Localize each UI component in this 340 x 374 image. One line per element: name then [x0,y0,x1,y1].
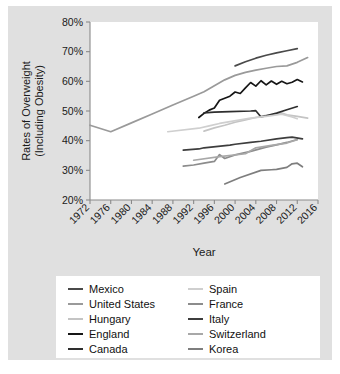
legend-swatch-icon [68,288,83,290]
legend-item-label: Spain [209,284,237,295]
legend-item-hungary[interactable]: Hungary [68,312,188,327]
x-tick-label: 2008 [253,201,278,226]
legend-item-switzerland[interactable]: Switzerland [188,327,316,342]
y-tick-label: 40% [62,134,83,146]
y-tick-label: 80% [62,16,83,28]
legend-swatch-icon [68,348,83,350]
legend-item-label: Italy [209,314,229,325]
legend-swatch-icon [188,303,203,305]
legend-item-france[interactable]: France [188,297,316,312]
legend-item-label: United States [89,299,155,310]
x-tick-label: 1992 [170,201,195,226]
legend-item-spain[interactable]: Spain [188,282,316,297]
x-axis-title: Year [192,246,215,258]
legend-item-mexico[interactable]: Mexico [68,282,188,297]
x-tick-label: 1996 [191,201,216,226]
y-tick-label: 70% [62,45,83,57]
legend-column-right: SpainFranceItalySwitzerlandKorea [188,282,316,358]
legend-swatch-icon [68,303,83,305]
x-tick-label: 2000 [212,201,237,226]
legend-swatch-icon [188,318,203,320]
legend-item-label: Switzerland [209,329,266,340]
x-tick-label: 2012 [274,201,299,226]
x-tick-label: 1976 [87,201,112,226]
y-axis-title-line2: (Including Obesity) [33,65,45,157]
legend-item-label: England [89,329,129,340]
chart-area: 20%30%40%50%60%70%80%1972197619801984198… [8,6,332,264]
y-tick-label: 60% [62,75,83,87]
chart-legend: MexicoUnited StatesHungaryEnglandCanada … [56,276,320,358]
legend-item-label: Hungary [89,314,131,325]
y-tick-label: 50% [62,105,83,117]
x-tick-label: 2016 [294,201,319,226]
legend-swatch-icon [188,348,203,350]
legend-item-label: France [209,299,243,310]
x-tick-label: 1988 [149,201,174,226]
y-axis-title: Rates of Overweight(Including Obesity) [20,61,45,161]
legend-item-italy[interactable]: Italy [188,312,316,327]
legend-swatch-icon [68,318,83,320]
legend-item-united-states[interactable]: United States [68,297,188,312]
y-tick-label: 30% [62,164,83,176]
legend-item-england[interactable]: England [68,327,188,342]
legend-item-label: Canada [89,344,128,355]
legend-item-canada[interactable]: Canada [68,342,188,357]
x-tick-label: 1984 [129,201,154,226]
x-tick-label: 1980 [108,201,133,226]
legend-swatch-icon [188,333,203,335]
legend-swatch-icon [188,288,203,290]
line-chart: 20%30%40%50%60%70%80%1972197619801984198… [8,6,332,264]
figure-panel: 20%30%40%50%60%70%80%1972197619801984198… [8,6,332,360]
legend-swatch-icon [68,333,83,335]
legend-item-label: Korea [209,344,238,355]
legend-item-korea[interactable]: Korea [188,342,316,357]
legend-column-left: MexicoUnited StatesHungaryEnglandCanada [68,282,188,358]
legend-item-label: Mexico [89,284,124,295]
y-axis-title-line1: Rates of Overweight [20,61,32,161]
x-tick-label: 2004 [232,201,257,226]
